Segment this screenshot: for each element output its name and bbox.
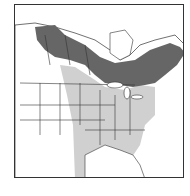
map-svg [15, 5, 184, 178]
range-map [14, 4, 184, 178]
hudson-bay [110, 30, 133, 60]
